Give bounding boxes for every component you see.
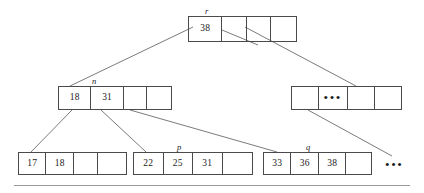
leafq-cell-3[interactable] — [346, 153, 371, 174]
leaf1-cell-3[interactable] — [98, 153, 126, 174]
leafq-cell-2[interactable]: 38 — [319, 153, 346, 174]
n-cell-2[interactable] — [124, 87, 148, 109]
leafq-cell-0[interactable]: 33 — [264, 153, 291, 174]
edge-n-to-leaf1 — [31, 110, 72, 152]
leafp-cell-2[interactable]: 31 — [193, 153, 223, 174]
leafq-cell-1[interactable]: 36 — [291, 153, 318, 174]
internal-node-n[interactable]: 18 31 — [58, 86, 172, 110]
edge-root-to-n — [70, 27, 193, 86]
right-cell-2[interactable] — [348, 87, 375, 109]
root-node[interactable]: 38 — [188, 16, 297, 42]
root-cell-1[interactable] — [222, 17, 247, 41]
right-cell-0[interactable] — [292, 87, 319, 109]
edge-n-to-leafp — [101, 110, 146, 152]
root-cell-3[interactable] — [271, 17, 296, 41]
leafp-cell-1[interactable]: 25 — [164, 153, 194, 174]
n-cell-1[interactable]: 31 — [91, 87, 123, 109]
n-cell-0[interactable]: 18 — [59, 87, 91, 109]
root-node-label: r — [205, 7, 208, 16]
leaf1-cell-0[interactable]: 17 — [19, 153, 46, 174]
internal-node-right[interactable]: ••• — [291, 86, 402, 110]
internal-n-label: n — [92, 77, 96, 86]
root-cell-0[interactable]: 38 — [189, 17, 222, 41]
right-cell-3[interactable] — [375, 87, 402, 109]
leaf-node-p[interactable]: 22 25 31 — [133, 152, 253, 175]
leafp-cell-3[interactable] — [223, 153, 252, 174]
figure-bottom-rule — [14, 185, 410, 186]
edge-n-to-leafq — [130, 110, 277, 152]
leaf-p-label: p — [177, 143, 181, 152]
edge-right-to-tail — [308, 110, 392, 156]
leaf-node-1[interactable]: 17 18 — [18, 152, 127, 175]
root-cell-2[interactable] — [247, 17, 272, 41]
leaf-node-q[interactable]: 33 36 38 — [263, 152, 372, 175]
leaf1-cell-2[interactable] — [74, 153, 98, 174]
btree-figure: r 38 n 18 31 ••• 17 18 p 22 25 31 q 33 3… — [0, 0, 424, 193]
right-cell-1-ellipsis[interactable]: ••• — [319, 87, 348, 109]
n-cell-3[interactable] — [147, 87, 171, 109]
leafp-cell-0[interactable]: 22 — [134, 153, 164, 174]
leaf1-cell-1[interactable]: 18 — [46, 153, 73, 174]
leaf-row-ellipsis: ••• — [385, 158, 403, 171]
leaf-q-label: q — [306, 143, 310, 152]
